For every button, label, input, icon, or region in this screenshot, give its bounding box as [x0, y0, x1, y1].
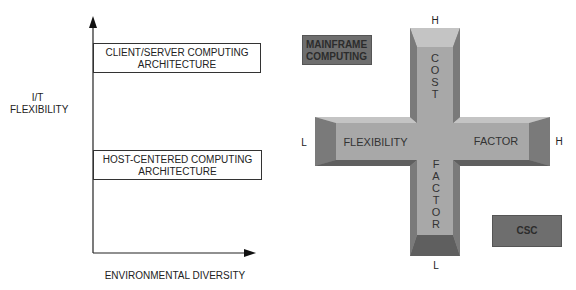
y-axis-label-line1: I/T — [10, 92, 65, 104]
factor-letter: T — [426, 194, 446, 206]
cost-letter: C — [425, 52, 445, 64]
y-axis-label: I/T FLEXIBILITY — [10, 92, 65, 116]
factor-horizontal-text: FACTOR — [468, 135, 524, 147]
cost-letter: S — [425, 76, 445, 88]
client-server-box: CLIENT/SERVER COMPUTING ARCHITECTURE — [93, 43, 261, 73]
factor-letter: O — [426, 206, 446, 218]
mainframe-line2: COMPUTING — [306, 51, 371, 63]
factor-letter: R — [426, 218, 446, 230]
factor-letter: F — [426, 158, 446, 170]
cross-right-label: H — [551, 136, 567, 148]
y-axis-label-line2: FLEXIBILITY — [10, 104, 65, 116]
factor-letter: C — [426, 182, 446, 194]
cost-letter: O — [425, 64, 445, 76]
cross-bottom-label: L — [428, 260, 444, 272]
host-centered-line2: ARCHITECTURE — [94, 166, 261, 178]
mainframe-computing-box: MAINFRAME COMPUTING — [302, 35, 372, 65]
host-centered-box: HOST-CENTERED COMPUTING ARCHITECTURE — [93, 150, 262, 180]
flexibility-text: FLEXIBILITY — [338, 136, 413, 148]
mainframe-line1: MAINFRAME — [306, 39, 371, 51]
host-centered-line1: HOST-CENTERED COMPUTING — [94, 154, 261, 166]
client-server-line2: ARCHITECTURE — [94, 59, 260, 71]
factor-vertical-text: F A C T O R — [426, 158, 446, 230]
cross-top-label: H — [427, 15, 443, 27]
cost-text: C O S T — [425, 52, 445, 100]
x-axis-label: ENVIRONMENTAL DIVERSITY — [95, 270, 255, 282]
cost-letter: T — [425, 88, 445, 100]
cross-left-label: L — [296, 137, 312, 149]
csc-box: CSC — [492, 215, 562, 247]
client-server-line1: CLIENT/SERVER COMPUTING — [94, 47, 260, 59]
factor-letter: A — [426, 170, 446, 182]
